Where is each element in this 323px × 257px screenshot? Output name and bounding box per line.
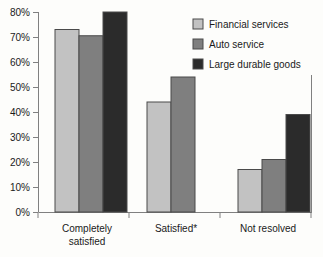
y-tick-label: 50%	[10, 82, 30, 93]
bar	[147, 102, 171, 212]
bar	[171, 77, 195, 212]
category-label: Completely	[62, 223, 112, 234]
bar-chart: 80% 70% 60% 50% 40% 30% 20% 10% 0% Compl…	[0, 0, 323, 257]
y-tick-label: 80%	[10, 7, 30, 18]
y-tick-label: 60%	[10, 57, 30, 68]
legend-swatch	[193, 39, 203, 49]
category-label: Satisfied*	[155, 223, 197, 234]
bar	[262, 160, 286, 213]
category-label: Not resolved	[240, 223, 296, 234]
chart-canvas: 80% 70% 60% 50% 40% 30% 20% 10% 0% Compl…	[0, 0, 323, 257]
bar	[286, 115, 310, 213]
category-label-line2: satisfied	[69, 236, 106, 247]
bar	[238, 170, 262, 213]
bar	[79, 36, 103, 212]
y-tick-label: 70%	[10, 32, 30, 43]
y-tick-label: 10%	[10, 182, 30, 193]
y-tick-label: 40%	[10, 107, 30, 118]
legend-label: Large durable goods	[209, 59, 301, 70]
y-tick-label: 0%	[16, 207, 31, 218]
y-tick-label: 30%	[10, 132, 30, 143]
legend-swatch	[193, 59, 203, 69]
legend-label: Auto service	[209, 39, 264, 50]
legend-swatch	[193, 19, 203, 29]
bar	[103, 12, 127, 212]
y-axis-labels: 80% 70% 60% 50% 40% 30% 20% 10% 0%	[10, 7, 30, 218]
legend-label: Financial services	[209, 19, 288, 30]
bar	[55, 30, 79, 213]
y-tick-label: 20%	[10, 157, 30, 168]
